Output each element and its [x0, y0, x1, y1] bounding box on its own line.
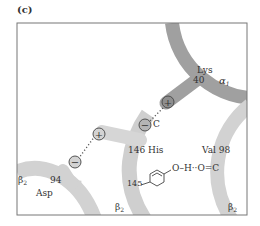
charge-his-minus: −: [139, 119, 151, 131]
label-145: 145: [127, 179, 142, 188]
label-beta2-right: β2: [228, 202, 237, 213]
svg-text:−: −: [71, 157, 79, 168]
svg-text:+: +: [95, 129, 103, 140]
label-val98: Val 98: [201, 145, 231, 155]
beta2-right-ribbon: [217, 105, 250, 220]
salt-bridge-his-asp: [79, 136, 95, 158]
label-alpha1: α1: [219, 75, 230, 87]
label-lys-number: 40: [193, 75, 205, 85]
charge-asp-minus: −: [69, 156, 81, 168]
panel-label: (c): [17, 4, 33, 15]
his146-branch: [102, 132, 140, 140]
label-lys: Lys: [197, 65, 213, 75]
ribbon-layer: [17, 23, 260, 220]
label-his146: 146 His: [128, 145, 164, 155]
label-c-top: C: [153, 119, 160, 129]
tyrosine-145-ring: [141, 170, 171, 186]
hemoglobin-salt-bridge-diagram: (c) + − + −: [0, 0, 260, 226]
asp94-stub: [63, 170, 72, 184]
charge-lys-plus: +: [162, 96, 174, 108]
label-94: 94: [50, 175, 62, 185]
svg-text:+: +: [164, 97, 172, 108]
label-beta2-bottom: β2: [115, 202, 124, 213]
label-hbond: O–H··O=C: [172, 163, 219, 173]
label-asp: Asp: [35, 188, 53, 198]
svg-text:−: −: [141, 120, 149, 131]
charge-his-plus: +: [93, 128, 105, 140]
